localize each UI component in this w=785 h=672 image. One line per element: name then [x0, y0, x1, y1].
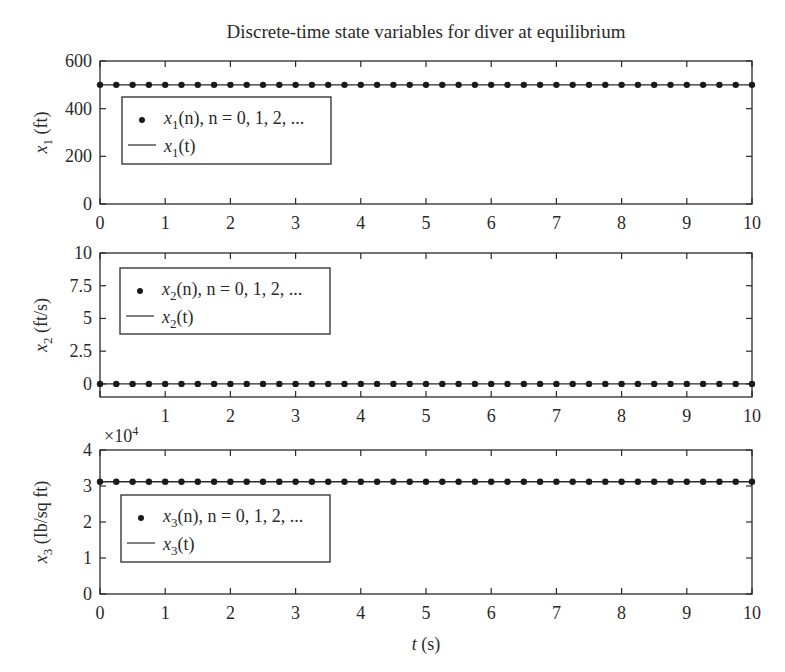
discrete-marker — [570, 82, 576, 88]
x-tick-label: 7 — [552, 213, 561, 233]
discrete-marker — [146, 381, 152, 387]
discrete-marker — [586, 478, 592, 484]
discrete-marker — [602, 82, 608, 88]
x-tick-label: 0 — [96, 603, 105, 623]
discrete-marker — [113, 381, 119, 387]
x-tick-label: 3 — [291, 213, 300, 233]
y-tick-label: 2.5 — [70, 341, 93, 361]
discrete-marker — [423, 381, 429, 387]
x-tick-label: 4 — [356, 213, 365, 233]
discrete-marker — [667, 82, 673, 88]
discrete-marker — [651, 478, 657, 484]
y-tick-label: 4 — [83, 440, 92, 460]
discrete-marker — [146, 82, 152, 88]
discrete-marker — [488, 381, 494, 387]
discrete-marker — [635, 478, 641, 484]
discrete-marker — [586, 82, 592, 88]
y-axis-label: x2 (ft/s) — [31, 298, 55, 353]
x-tick-label: 2 — [226, 213, 235, 233]
x-tick-label: 8 — [617, 406, 626, 426]
discrete-marker — [129, 381, 135, 387]
discrete-marker — [146, 478, 152, 484]
legend: x3(n), n = 0, 1, 2, ...x3(t) — [121, 495, 330, 562]
x-tick-label: 7 — [552, 406, 561, 426]
discrete-marker — [733, 478, 739, 484]
y-exponent-label: ×104 — [104, 424, 138, 446]
x-tick-label: 5 — [422, 406, 431, 426]
discrete-marker — [341, 381, 347, 387]
x-tick-label: 6 — [487, 406, 496, 426]
discrete-marker — [651, 381, 657, 387]
axes-group: 0123456789100200400600x1 (ft)x1(n), n = … — [31, 51, 761, 623]
x-tick-label: 9 — [682, 213, 691, 233]
discrete-marker — [390, 478, 396, 484]
discrete-marker — [178, 82, 184, 88]
discrete-marker — [521, 478, 527, 484]
discrete-marker — [162, 82, 168, 88]
discrete-marker — [211, 381, 217, 387]
y-tick-label: 7.5 — [70, 276, 93, 296]
discrete-marker — [97, 381, 103, 387]
discrete-marker — [455, 478, 461, 484]
x-tick-label: 7 — [552, 603, 561, 623]
discrete-marker — [358, 478, 364, 484]
discrete-marker — [553, 381, 559, 387]
discrete-marker — [537, 381, 543, 387]
x-tick-label: 10 — [743, 213, 761, 233]
discrete-marker — [227, 478, 233, 484]
discrete-marker — [635, 381, 641, 387]
discrete-marker — [570, 478, 576, 484]
x-tick-label: 8 — [617, 213, 626, 233]
discrete-marker — [227, 82, 233, 88]
discrete-marker — [341, 478, 347, 484]
y-tick-label: 200 — [65, 146, 92, 166]
discrete-marker — [227, 381, 233, 387]
discrete-marker — [749, 478, 755, 484]
x-axis-label-unit: (s) — [417, 634, 441, 655]
discrete-marker — [700, 381, 706, 387]
discrete-marker — [602, 381, 608, 387]
discrete-marker — [195, 478, 201, 484]
discrete-marker — [684, 381, 690, 387]
x-tick-label: 0 — [96, 213, 105, 233]
discrete-marker — [733, 82, 739, 88]
discrete-marker — [178, 381, 184, 387]
discrete-marker — [309, 381, 315, 387]
discrete-marker — [211, 478, 217, 484]
discrete-marker — [488, 478, 494, 484]
discrete-marker — [537, 478, 543, 484]
discrete-marker — [325, 478, 331, 484]
discrete-marker — [504, 82, 510, 88]
x-tick-label: 6 — [487, 603, 496, 623]
discrete-marker — [195, 82, 201, 88]
discrete-marker — [521, 381, 527, 387]
x-tick-label: 3 — [291, 603, 300, 623]
discrete-marker — [700, 82, 706, 88]
discrete-marker — [472, 478, 478, 484]
x-tick-label: 2 — [226, 406, 235, 426]
legend-box — [120, 268, 330, 334]
discrete-marker — [129, 478, 135, 484]
x-tick-label: 1 — [161, 213, 170, 233]
discrete-marker — [390, 82, 396, 88]
y-tick-label: 0 — [83, 584, 92, 604]
discrete-marker — [195, 381, 201, 387]
x-axis-label: t (s) — [412, 634, 441, 655]
discrete-marker — [374, 82, 380, 88]
discrete-marker — [276, 82, 282, 88]
y-tick-label: 2 — [83, 512, 92, 532]
discrete-marker — [570, 381, 576, 387]
y-tick-label: 0 — [83, 374, 92, 394]
x-tick-label: 8 — [617, 603, 626, 623]
discrete-marker — [407, 82, 413, 88]
discrete-marker — [325, 82, 331, 88]
subplot-3: 01234567891001234×104x3 (Ib/sq ft)x3(n),… — [31, 424, 761, 623]
discrete-marker — [113, 82, 119, 88]
discrete-marker — [618, 478, 624, 484]
discrete-marker — [504, 381, 510, 387]
discrete-marker — [178, 478, 184, 484]
discrete-marker — [292, 82, 298, 88]
discrete-marker — [97, 82, 103, 88]
chart-svg: Discrete-time state variables for diver … — [0, 0, 785, 672]
discrete-marker — [749, 381, 755, 387]
